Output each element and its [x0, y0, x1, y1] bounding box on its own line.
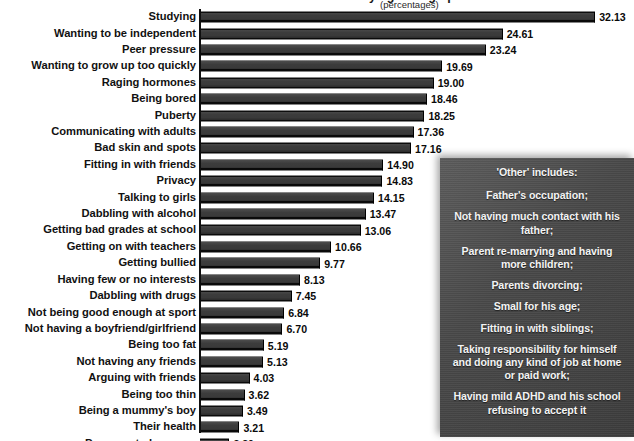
bar [200, 110, 424, 121]
bar-category-label: Having few or no interests [57, 274, 196, 285]
bar-and-value: 8.13 [200, 274, 325, 285]
bar-value-label: 32.13 [599, 12, 626, 23]
bar-category-label: Getting bullied [118, 258, 196, 269]
bar [200, 159, 383, 170]
bar-and-value: 14.15 [200, 192, 405, 203]
bar-and-value: 9.77 [200, 258, 345, 269]
other-includes-item: Father's occupation; [449, 189, 625, 202]
bar-value-label: 13.06 [365, 225, 392, 236]
bar-category-label: Studying [149, 12, 196, 23]
bar-and-value: 23.24 [200, 45, 516, 56]
bar-category-label: Their health [133, 422, 196, 433]
bar-and-value: 5.13 [200, 356, 288, 367]
bar [200, 422, 239, 433]
bar-category-label: Bad skin and spots [94, 143, 196, 154]
other-includes-item: Small for his age; [449, 300, 625, 313]
bar-category-label: Not being good enough at sport [28, 307, 196, 318]
bar-value-label: 24.61 [507, 28, 534, 39]
bar [200, 127, 414, 138]
bar-value-label: 14.83 [386, 176, 413, 187]
other-includes-item: Having mild ADHD and his school refusing… [449, 390, 625, 416]
bar-category-label: Communicating with adults [51, 126, 196, 137]
bar-and-value: 6.70 [200, 323, 307, 334]
bar-and-value: 3.49 [200, 405, 268, 416]
bar-and-value: 13.47 [200, 209, 396, 220]
bar-and-value: 7.45 [200, 291, 316, 302]
bar-and-value: 14.83 [200, 176, 413, 187]
chart-page: What are the main worries for boys growi… [0, 0, 634, 441]
y-axis-line [199, 9, 201, 433]
bar [200, 176, 382, 187]
other-includes-item: Parent re-marrying and having more child… [449, 245, 625, 271]
bar-and-value: 18.46 [200, 94, 458, 105]
bar [200, 389, 245, 400]
bar [200, 241, 331, 252]
bar-value-label: 13.47 [370, 209, 397, 220]
bar-category-label: Being a mummy's boy [79, 405, 196, 416]
bar-and-value: 6.84 [200, 307, 309, 318]
bar [200, 94, 427, 105]
bar [200, 356, 263, 367]
bar-category-label: Arguing with friends [88, 373, 196, 384]
bar-and-value: 24.61 [200, 28, 533, 39]
bar [200, 143, 411, 154]
bar-value-label: 6.84 [288, 307, 309, 318]
bar [200, 45, 486, 56]
bar-category-label: Peer pressure [122, 44, 196, 55]
bar [200, 274, 300, 285]
bar-value-label: 14.90 [387, 160, 414, 171]
bar-and-value: 17.16 [200, 143, 442, 154]
chart-title: What are the main worries for boys growi… [0, 0, 634, 3]
bar-value-label: 5.13 [267, 356, 288, 367]
bar-row: Peer pressure23.24 [0, 42, 634, 58]
other-includes-item: Fitting in with siblings; [449, 322, 625, 335]
bar-category-label: Raging hormones [102, 77, 196, 88]
bar [200, 258, 320, 269]
bar-and-value: 17.36 [200, 127, 444, 138]
bar-and-value: 4.03 [200, 373, 274, 384]
bar-value-label: 10.66 [335, 242, 362, 253]
bar [200, 12, 595, 23]
bar-value-label: 18.25 [428, 110, 455, 121]
bar-row: Puberty18.25 [0, 107, 634, 123]
bar-value-label: 14.15 [378, 192, 405, 203]
bar [200, 28, 503, 39]
bar-value-label: 23.24 [490, 45, 517, 56]
bar-category-label: Puberty [155, 110, 196, 121]
other-includes-item: Not having much contact with his father; [449, 210, 625, 236]
bar [200, 291, 292, 302]
bar-value-label: 17.36 [418, 127, 445, 138]
bar-row: Wanting to be independent24.61 [0, 25, 634, 41]
bar-value-label: 18.46 [431, 94, 458, 105]
bar-category-label: Dabbling with alcohol [81, 208, 196, 219]
other-includes-heading: 'Other' includes: [449, 166, 625, 179]
bar-row: Wanting to grow up too quickly19.69 [0, 58, 634, 74]
bar [200, 209, 366, 220]
bar-and-value: 3.62 [200, 389, 269, 400]
other-includes-callout: 'Other' includes: Father's occupation;No… [440, 158, 634, 437]
bar-category-label: Getting on with teachers [67, 241, 196, 252]
bar-category-label: Not having a boyfriend/girlfriend [25, 323, 196, 334]
bar-value-label: 9.77 [324, 258, 345, 269]
bar-category-label: Being too thin [122, 389, 197, 400]
bar-row: Bad skin and spots17.16 [0, 140, 634, 156]
bar-row: Being bored18.46 [0, 91, 634, 107]
bar-value-label: 3.62 [249, 389, 270, 400]
bar-category-label: Being too fat [128, 340, 196, 351]
bar-value-label: 6.70 [286, 324, 307, 335]
bar-row: Communicating with adults17.36 [0, 124, 634, 140]
bar-value-label: 7.45 [296, 291, 317, 302]
bar [200, 405, 243, 416]
bar-and-value: 19.69 [200, 61, 473, 72]
bar-and-value: 3.21 [200, 422, 264, 433]
bar-and-value: 32.13 [200, 12, 626, 23]
bar-category-label: Fitting in with friends [84, 159, 196, 170]
bar-category-label: Talking to girls [118, 192, 196, 203]
bar [200, 77, 434, 88]
bar-category-label: Being bored [131, 94, 196, 105]
bar-category-label: Not having any friends [77, 356, 197, 367]
bar-value-label: 19.69 [446, 61, 473, 72]
bar-value-label: 3.49 [247, 406, 268, 417]
bar-row: Studying32.13 [0, 9, 634, 25]
bar [200, 61, 442, 72]
